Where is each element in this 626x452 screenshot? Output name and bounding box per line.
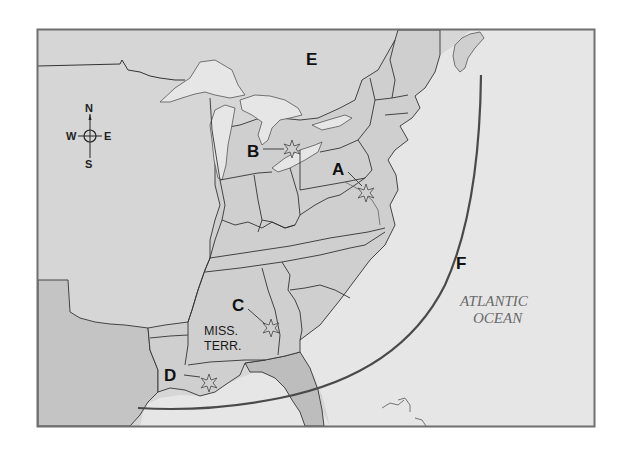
atlantic-ocean-label-line1: ATLANTIC [459,293,529,309]
miss-terr-label-line2: TERR. [204,339,242,353]
compass-north: N [85,102,93,114]
compass-east: E [104,130,111,142]
war-of-1812-map: N W E S A B C D E F MISS. TERR. ATLANTIC… [0,0,626,452]
label-c: C [232,296,244,315]
miss-terr-label-line1: MISS. [204,324,238,338]
compass-south: S [85,158,92,170]
label-a: A [332,160,344,179]
label-e: E [306,50,317,69]
label-d: D [164,366,176,385]
label-b: B [247,142,259,161]
label-f: F [456,254,466,273]
compass-west: W [66,130,77,142]
atlantic-ocean-label-line2: OCEAN [473,310,523,326]
